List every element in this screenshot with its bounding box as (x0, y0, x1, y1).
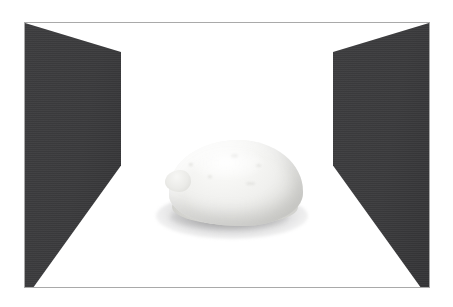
surface-speckle (246, 182, 255, 185)
picture-frame (24, 22, 430, 288)
scene-stage (0, 0, 453, 307)
object-nub (165, 170, 191, 192)
object-specular-highlight (191, 147, 263, 179)
